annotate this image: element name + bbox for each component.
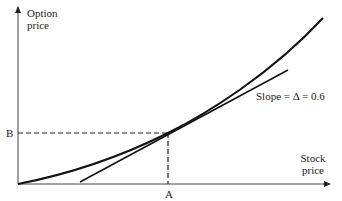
y-axis-label-line1: Option [27,7,58,19]
point-a-label: A [165,188,173,200]
x-axis-label-line2: price [302,164,324,176]
tangent-line [80,70,288,182]
delta-diagram: Option price Stock price Slope = Δ = 0.6… [0,0,342,201]
tangent-slope-label: Slope = Δ = 0.6 [256,90,325,102]
y-axis-label-line2: price [27,19,49,31]
x-axis-label-line1: Stock [300,152,326,164]
point-b-label: B [6,127,13,139]
